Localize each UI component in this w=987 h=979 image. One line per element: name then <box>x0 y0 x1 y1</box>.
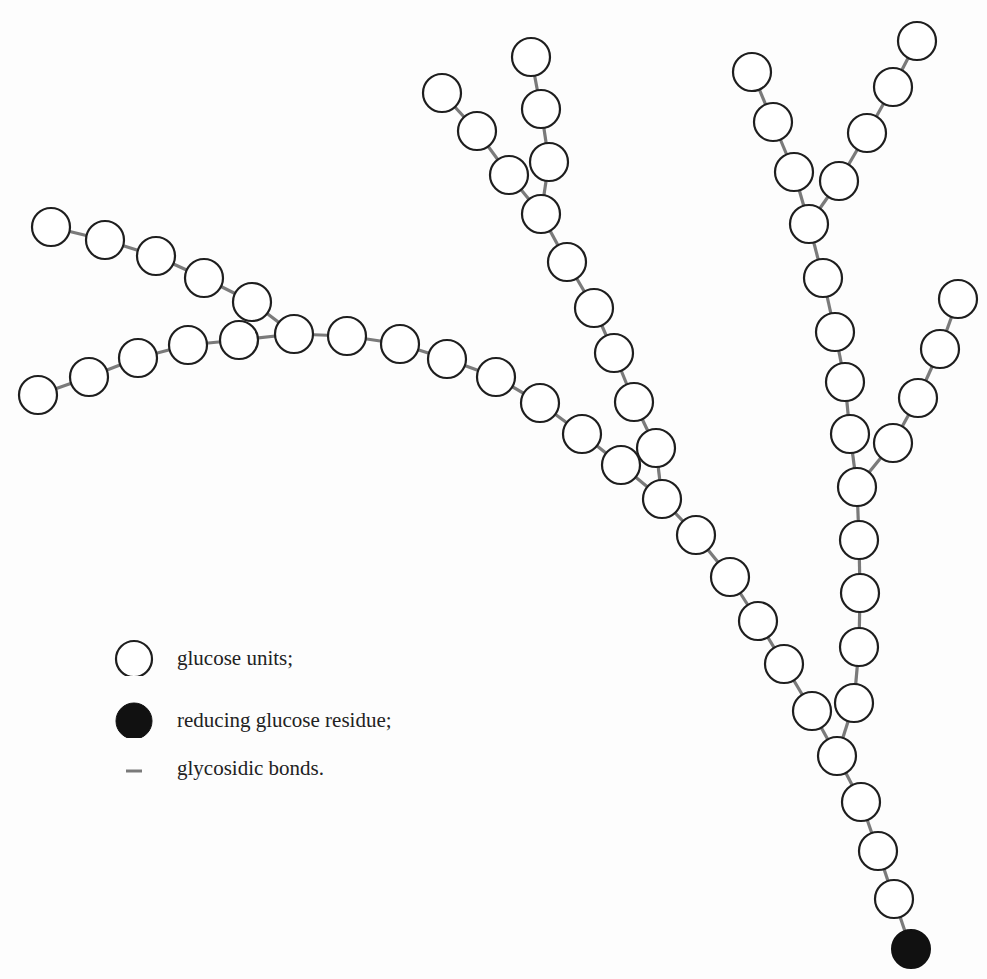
glucose-unit <box>838 468 876 506</box>
glucose-unit <box>733 53 771 91</box>
glucose-unit <box>643 480 681 518</box>
dash-icon <box>114 750 154 790</box>
glucose-unit <box>818 737 856 775</box>
glucose-unit <box>826 363 864 401</box>
glucose-unit <box>831 415 869 453</box>
glucose-units <box>19 22 977 968</box>
glucose-unit <box>595 334 633 372</box>
legend-label: glucose units; <box>177 646 293 671</box>
glucose-unit <box>790 205 828 243</box>
glucose-unit <box>793 692 831 730</box>
glucose-unit <box>70 358 108 396</box>
glucose-unit <box>602 446 640 484</box>
open-circle-icon <box>114 636 154 676</box>
legend-label: reducing glucose residue; <box>177 708 392 733</box>
glucose-unit <box>169 326 207 364</box>
glucose-unit <box>137 237 175 275</box>
glucose-unit <box>522 90 560 128</box>
glucose-unit <box>86 221 124 259</box>
glucose-unit <box>859 832 897 870</box>
reducing-glucose-residue <box>892 930 930 968</box>
filled-circle-icon <box>114 698 154 738</box>
glucose-unit <box>875 880 913 918</box>
glucose-unit <box>754 103 792 141</box>
glucose-unit <box>820 162 858 200</box>
glucose-unit <box>848 114 886 152</box>
glucose-unit <box>775 153 813 191</box>
glucose-unit <box>328 317 366 355</box>
glucose-unit <box>548 243 586 281</box>
glucose-unit <box>637 429 675 467</box>
glucose-unit <box>521 384 559 422</box>
glucose-unit <box>428 340 466 378</box>
glucose-unit <box>677 516 715 554</box>
glucose-unit <box>816 313 854 351</box>
glucose-unit <box>840 628 878 666</box>
glucose-unit <box>939 280 977 318</box>
glucose-unit <box>765 645 803 683</box>
glucose-unit <box>841 574 879 612</box>
glucose-unit <box>423 74 461 112</box>
glucose-unit <box>19 376 57 414</box>
glucose-unit <box>711 558 749 596</box>
glucose-unit <box>32 208 70 246</box>
legend-label: glycosidic bonds. <box>177 756 324 781</box>
glucose-unit <box>119 339 157 377</box>
glucose-unit <box>898 22 936 60</box>
glucose-unit <box>185 259 223 297</box>
glucose-unit <box>874 68 912 106</box>
glucose-unit <box>490 156 528 194</box>
glucose-unit <box>575 289 613 327</box>
glucose-unit <box>530 143 568 181</box>
glucose-unit <box>899 379 937 417</box>
glucose-unit <box>381 325 419 363</box>
glucose-unit <box>233 283 271 321</box>
glucose-unit <box>874 424 912 462</box>
glucose-unit <box>835 684 873 722</box>
glucose-unit <box>458 112 496 150</box>
glucose-unit <box>921 330 959 368</box>
glucose-unit <box>512 38 550 76</box>
glucose-unit <box>522 195 560 233</box>
glucose-unit <box>804 259 842 297</box>
glucose-unit <box>220 321 258 359</box>
glucose-unit <box>840 521 878 559</box>
glucose-unit <box>615 383 653 421</box>
glucose-unit <box>275 315 313 353</box>
glucose-unit <box>842 783 880 821</box>
glucose-unit <box>739 602 777 640</box>
glucose-unit <box>477 358 515 396</box>
glucose-unit <box>563 415 601 453</box>
glucose-branch-diagram <box>0 0 987 979</box>
